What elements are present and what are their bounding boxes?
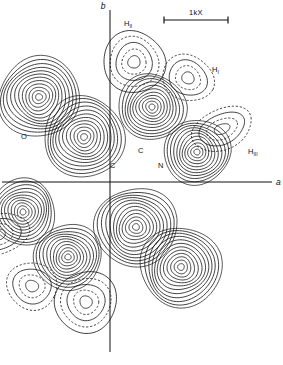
contour-ring — [74, 290, 99, 314]
contour-ring — [22, 81, 55, 115]
contour-ring — [122, 214, 150, 240]
contour-ring — [104, 31, 166, 93]
contour-ring — [146, 101, 158, 113]
atom-label-c-mid: C — [138, 146, 144, 155]
contour-ring — [128, 56, 140, 68]
contour-ring — [129, 220, 143, 233]
scale-bar-label: 1kX — [189, 8, 203, 17]
contour-ring — [66, 121, 100, 154]
contour-ring — [80, 296, 92, 308]
atom-label-h-iii: HIII — [248, 147, 258, 157]
contour-ring — [20, 209, 26, 215]
contour-ring — [182, 72, 194, 84]
contour-peak-o — [0, 55, 80, 136]
contour-ring — [145, 231, 219, 305]
contour-ring — [116, 42, 152, 80]
contour-ring — [8, 198, 39, 227]
atom-label-o: O — [21, 132, 27, 141]
contour-ring — [0, 224, 13, 246]
contour-peak-h-i — [163, 54, 215, 100]
contour-peak-h-ii — [104, 31, 166, 93]
contour-ring — [191, 146, 203, 158]
atom-label-subscript: I — [217, 69, 218, 75]
contour-ring — [6, 263, 56, 310]
contour-ring — [178, 264, 185, 271]
atom-label-subscript: III — [253, 151, 257, 157]
b-axis-label: b — [101, 1, 106, 11]
contour-ring — [62, 251, 75, 263]
a-axis-label: a — [276, 177, 281, 187]
atom-label-subscript: II — [129, 23, 132, 29]
contour-ring — [110, 200, 163, 254]
contour-ring — [36, 94, 43, 101]
contour-peak-c — [119, 74, 187, 140]
contour-ring — [119, 74, 187, 140]
contour-map-canvas: 1kX OCCNHIHIIHIII b a — [0, 0, 283, 365]
contour-peak-n — [0, 178, 55, 245]
contour-ring — [65, 254, 71, 260]
contour-peak-c — [93, 189, 177, 267]
contour-ring — [194, 149, 200, 155]
contour-ring — [53, 242, 83, 273]
contour-ring — [149, 104, 155, 110]
atom-label-n: N — [158, 161, 163, 170]
contour-ring — [163, 250, 198, 283]
contour-ring — [7, 67, 70, 126]
contour-ring — [60, 278, 111, 327]
atom-label-h-ii: HII — [124, 19, 132, 29]
contour-ring — [32, 91, 46, 104]
contour-ring — [119, 210, 153, 243]
contour-ring — [81, 134, 88, 141]
atom-labels-layer: OCCNHIHIIHIII — [21, 19, 258, 170]
contour-ring — [13, 269, 52, 304]
contour-ring — [152, 236, 212, 297]
contour-ring — [122, 49, 146, 74]
contour-peak-h-i — [6, 263, 56, 310]
electron-density-map: 1kX OCCNHIHIIHIII b a — [0, 0, 283, 365]
contour-ring — [53, 106, 114, 166]
scale-bar: 1kX — [164, 8, 228, 24]
contour-ring — [77, 130, 90, 144]
contour-ring — [175, 66, 200, 90]
contour-ring — [182, 136, 211, 167]
contour-ring — [67, 285, 105, 321]
contour-ring — [26, 280, 39, 292]
contour-ring — [17, 206, 29, 218]
contour-ring — [136, 92, 168, 121]
contour-peak-n — [164, 121, 231, 186]
atom-label-c-left: C — [110, 161, 116, 170]
contour-ring — [169, 60, 207, 95]
contour-ring — [19, 275, 45, 298]
contour-ring — [132, 224, 139, 231]
atom-label-h-i: HI — [212, 65, 219, 75]
contour-ring — [0, 188, 46, 236]
contour-ring — [15, 74, 62, 121]
contour-ring — [174, 260, 187, 274]
contour-peak-o — [140, 228, 222, 308]
